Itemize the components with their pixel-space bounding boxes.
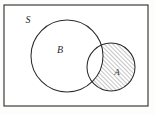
universal-set-label: S (26, 14, 31, 25)
venn-diagram-canvas: S B A (0, 0, 155, 115)
shaded-region-a-minus-b (0, 0, 155, 115)
set-a-label: A (113, 67, 120, 77)
set-b-label: B (57, 44, 63, 55)
venn-diagram-figure: S B A (0, 0, 155, 115)
